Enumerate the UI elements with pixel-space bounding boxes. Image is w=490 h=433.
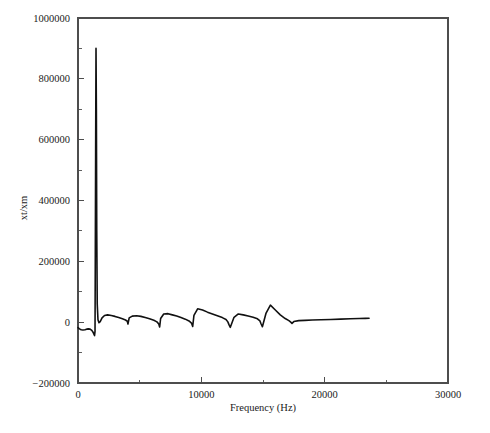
y-tick-label: 200000 [39, 256, 71, 267]
x-axis-tick-labels: 0100002000030000 [75, 389, 461, 400]
y-tick-label: 600000 [39, 134, 71, 145]
y-tick-label: 1000000 [33, 13, 70, 24]
x-tick-label: 30000 [435, 389, 461, 400]
x-axis-title: Frequency (Hz) [230, 402, 297, 414]
y-tick-label: 800000 [39, 73, 71, 84]
x-tick-label: 20000 [312, 389, 338, 400]
y-axis-title: xt/xm [18, 196, 29, 221]
data-series-group [78, 48, 369, 335]
y-tick-label: −200000 [33, 378, 70, 389]
chart-figure: −20000002000004000006000008000001000000 … [0, 0, 490, 433]
x-tick-label: 10000 [188, 389, 214, 400]
y-axis-tick-labels: −20000002000004000006000008000001000000 [33, 13, 70, 389]
axis-frame-path [78, 18, 448, 383]
y-tick-label: 0 [65, 317, 70, 328]
data-series-line [78, 48, 369, 335]
plot-frame [78, 18, 448, 383]
y-tick-label: 400000 [39, 195, 71, 206]
chart-plot-svg: −20000002000004000006000008000001000000 … [0, 0, 490, 433]
x-tick-label: 0 [75, 389, 80, 400]
